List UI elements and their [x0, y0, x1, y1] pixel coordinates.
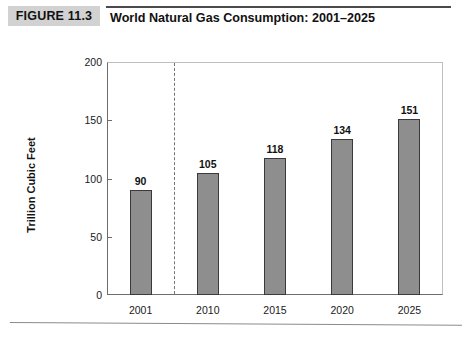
bar-value-label: 105 [178, 158, 238, 170]
bar-value-label: 134 [312, 124, 372, 136]
x-tick-label: 2015 [245, 304, 305, 316]
bar-value-label: 90 [111, 175, 171, 187]
figure-title: World Natural Gas Consumption: 2001–2025 [110, 11, 460, 25]
footer-rule [10, 322, 462, 326]
bar-chart: Trillion Cubic Feet 050100150200 9010511… [0, 34, 471, 319]
y-tick-label: 150 [70, 114, 102, 126]
bar-2020 [331, 139, 353, 295]
bar-value-label: 151 [379, 104, 439, 116]
x-tick-label: 2010 [178, 304, 238, 316]
projection-divider-line [174, 63, 175, 294]
bar-2025 [398, 119, 420, 295]
figure-number-badge: FIGURE 11.3 [8, 6, 100, 26]
y-tick-label: 100 [70, 173, 102, 185]
figure-header: FIGURE 11.3 World Natural Gas Consumptio… [0, 0, 471, 34]
x-tick-label: 2020 [312, 304, 372, 316]
y-tick-label: 0 [70, 289, 102, 301]
title-divider-rule [106, 6, 451, 8]
bar-value-label: 118 [245, 143, 305, 155]
x-tick-label: 2025 [379, 304, 439, 316]
y-tick-label: 50 [70, 231, 102, 243]
y-axis-title: Trillion Cubic Feet [25, 125, 37, 245]
bar-2015 [264, 158, 286, 295]
figure-number-label: FIGURE 11.3 [16, 9, 93, 23]
y-tick-mark [107, 237, 112, 238]
x-tick-label: 2001 [111, 304, 171, 316]
bar-2001 [130, 190, 152, 295]
y-tick-mark [107, 120, 112, 121]
y-axis-tick-labels: 050100150200 [68, 34, 102, 319]
y-tick-label: 200 [70, 56, 102, 68]
bar-2010 [197, 173, 219, 295]
